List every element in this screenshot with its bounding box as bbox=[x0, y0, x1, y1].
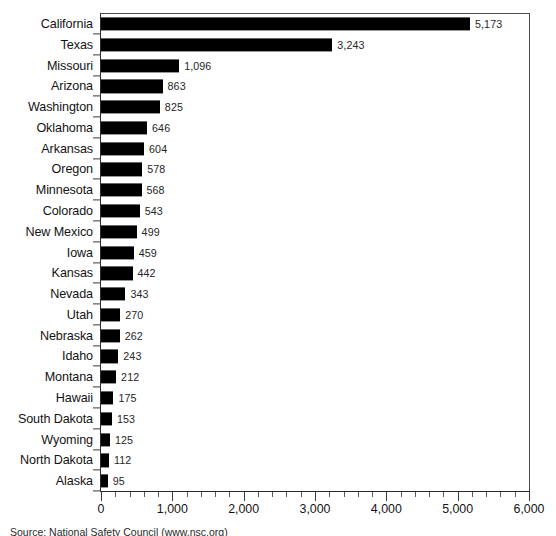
category-label: Iowa bbox=[67, 246, 93, 259]
category-label: Hawaii bbox=[56, 392, 93, 405]
bar bbox=[101, 163, 142, 176]
bar-value-label: 825 bbox=[165, 102, 183, 113]
category-label: Texas bbox=[61, 38, 93, 51]
category-label: Alaska bbox=[56, 475, 93, 488]
x-axis-minor-tick bbox=[187, 492, 188, 497]
bar bbox=[101, 267, 133, 280]
chart-row: Nebraska262 bbox=[0, 326, 556, 346]
bar-value-label: 442 bbox=[138, 268, 156, 279]
chart-row: New Mexico499 bbox=[0, 222, 556, 242]
bar bbox=[101, 371, 116, 384]
bar bbox=[101, 184, 142, 197]
x-axis-tick-label: 5,000 bbox=[442, 503, 473, 515]
x-axis-minor-tick bbox=[258, 492, 259, 497]
bar-chart: California5,173Texas3,243Missouri1,096Ar… bbox=[0, 0, 556, 536]
x-axis-minor-tick bbox=[130, 492, 131, 497]
x-axis-minor-tick bbox=[344, 492, 345, 497]
bar-value-label: 112 bbox=[114, 455, 131, 466]
bar bbox=[101, 433, 110, 446]
bar bbox=[101, 101, 160, 114]
chart-row: Nevada343 bbox=[0, 284, 556, 304]
chart-row: Idaho243 bbox=[0, 347, 556, 367]
chart-row: Colorado543 bbox=[0, 201, 556, 221]
chart-row: Oklahoma646 bbox=[0, 118, 556, 138]
x-axis-minor-tick bbox=[415, 492, 416, 497]
x-axis-tick-label: 1,000 bbox=[157, 503, 188, 515]
chart-row: Utah270 bbox=[0, 305, 556, 325]
x-axis-minor-tick bbox=[372, 492, 373, 497]
chart-row: Kansas442 bbox=[0, 263, 556, 283]
category-label: New Mexico bbox=[25, 225, 93, 238]
chart-row: California5,173 bbox=[0, 14, 556, 34]
x-axis-major-tick bbox=[386, 492, 387, 501]
x-axis-major-tick bbox=[244, 492, 245, 501]
x-axis-major-tick bbox=[529, 492, 530, 501]
x-axis-tick-label: 3,000 bbox=[299, 503, 330, 515]
x-axis-minor-tick bbox=[158, 492, 159, 497]
bar bbox=[101, 391, 113, 404]
x-axis-major-tick bbox=[172, 492, 173, 501]
bar-value-label: 270 bbox=[125, 310, 143, 321]
bar bbox=[101, 59, 179, 72]
bar bbox=[101, 475, 108, 488]
chart-row: Texas3,243 bbox=[0, 35, 556, 55]
category-label: Montana bbox=[45, 371, 93, 384]
chart-row: Alaska95 bbox=[0, 471, 556, 491]
category-label: Nevada bbox=[50, 288, 93, 301]
chart-row: Hawaii175 bbox=[0, 388, 556, 408]
bar bbox=[101, 246, 134, 259]
bar bbox=[101, 308, 120, 321]
chart-row: Oregon578 bbox=[0, 159, 556, 179]
bar bbox=[101, 17, 470, 30]
x-axis-minor-tick bbox=[329, 492, 330, 497]
category-label: Washington bbox=[28, 101, 93, 114]
bar-value-label: 5,173 bbox=[475, 19, 502, 30]
x-axis-minor-tick bbox=[443, 492, 444, 497]
x-axis-minor-tick bbox=[401, 492, 402, 497]
bar-value-label: 212 bbox=[121, 372, 139, 383]
chart-row: Washington825 bbox=[0, 97, 556, 117]
x-axis-tick-label: 2,000 bbox=[228, 503, 259, 515]
x-axis-minor-tick bbox=[486, 492, 487, 497]
category-label: Kansas bbox=[52, 267, 93, 280]
category-label: South Dakota bbox=[18, 413, 93, 426]
category-label: Nebraska bbox=[40, 329, 93, 342]
bar-value-label: 153 bbox=[117, 413, 135, 424]
bar bbox=[101, 142, 144, 155]
x-axis-minor-tick bbox=[500, 492, 501, 497]
category-label: Arizona bbox=[51, 80, 93, 93]
x-axis-major-tick bbox=[458, 492, 459, 501]
category-label: Oklahoma bbox=[36, 122, 93, 135]
x-axis-minor-tick bbox=[229, 492, 230, 497]
chart-row: Wyoming125 bbox=[0, 430, 556, 450]
category-label: Wyoming bbox=[41, 433, 93, 446]
bar bbox=[101, 204, 140, 217]
chart-row: North Dakota112 bbox=[0, 450, 556, 470]
x-axis-minor-tick bbox=[286, 492, 287, 497]
bar-value-label: 3,243 bbox=[337, 39, 364, 50]
x-axis-minor-tick bbox=[472, 492, 473, 497]
bar-value-label: 578 bbox=[147, 164, 165, 175]
category-label: Colorado bbox=[43, 205, 93, 218]
bar-value-label: 243 bbox=[123, 351, 141, 362]
bar-value-label: 646 bbox=[152, 123, 170, 134]
bar-value-label: 125 bbox=[115, 434, 133, 445]
bar-value-label: 1,096 bbox=[184, 60, 211, 71]
bar bbox=[101, 288, 125, 301]
bar bbox=[101, 225, 137, 238]
bar bbox=[101, 454, 109, 467]
bar bbox=[101, 38, 332, 51]
category-label: Minnesota bbox=[36, 184, 93, 197]
category-label: Oregon bbox=[52, 163, 93, 176]
x-axis-tick-label: 6,000 bbox=[513, 503, 544, 515]
bar-value-label: 95 bbox=[113, 476, 125, 487]
bar-value-label: 568 bbox=[147, 185, 165, 196]
x-axis-minor-tick bbox=[115, 492, 116, 497]
x-axis-minor-tick bbox=[201, 492, 202, 497]
x-axis-major-tick bbox=[315, 492, 316, 501]
category-label: North Dakota bbox=[20, 454, 93, 467]
bar bbox=[101, 121, 147, 134]
bar bbox=[101, 412, 112, 425]
x-axis-minor-tick bbox=[301, 492, 302, 497]
chart-row: Minnesota568 bbox=[0, 180, 556, 200]
